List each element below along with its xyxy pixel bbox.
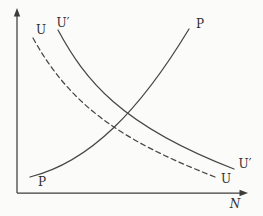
label-u-prime-top: U′ xyxy=(57,16,70,30)
diagram-canvas: U U′ P P U′ U N xyxy=(0,0,263,216)
label-u-prime-right: U′ xyxy=(239,157,252,171)
label-u-top: U xyxy=(36,23,46,37)
u-prime-curve xyxy=(58,30,234,169)
x-axis-arrowhead-icon xyxy=(240,190,249,196)
label-u-bottom: U xyxy=(221,172,231,186)
p-curve xyxy=(30,29,189,177)
x-axis-label: N xyxy=(229,197,241,211)
label-p-bottom: P xyxy=(38,175,46,189)
y-axis-arrowhead-icon xyxy=(14,8,20,17)
u-dashed-curve xyxy=(33,38,215,177)
economics-curve-diagram: U U′ P P U′ U N xyxy=(0,0,263,216)
label-p-top: P xyxy=(196,17,204,31)
